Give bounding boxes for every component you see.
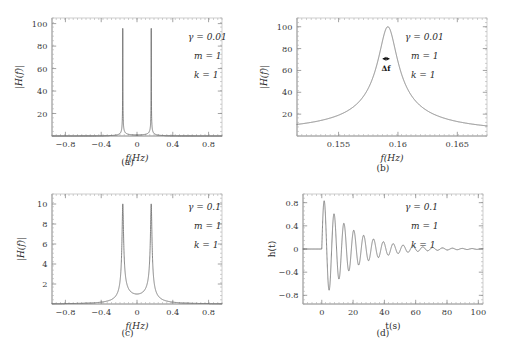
y-tick-label: 80 bbox=[282, 44, 292, 54]
panel-b-plot: 0.1550.160.16520406080100f(Hz)|H(f)|γ = … bbox=[255, 0, 511, 180]
x-tick-label: 0.8 bbox=[202, 307, 215, 317]
transfer-function-curve bbox=[52, 28, 222, 136]
parameter-annotation: γ = 0.01 bbox=[188, 32, 227, 42]
panel-a-caption: (a) bbox=[0, 157, 255, 167]
parameter-annotation: m = 1 bbox=[411, 221, 439, 231]
impulse-response-curve bbox=[303, 201, 483, 290]
y-axis-label: |H(f)| bbox=[14, 65, 25, 89]
y-tick-label: 6 bbox=[42, 239, 47, 249]
y-tick-label: 0 bbox=[293, 244, 298, 254]
x-tick-label: 60 bbox=[410, 307, 420, 317]
y-tick-label: 20 bbox=[282, 109, 292, 119]
x-tick-label: 0.4 bbox=[166, 307, 179, 317]
x-tick-label: 0.16 bbox=[389, 139, 407, 149]
y-tick-label: 0.8 bbox=[285, 198, 298, 208]
transfer-function-curve bbox=[297, 27, 487, 126]
x-tick-label: 100 bbox=[470, 307, 486, 317]
x-tick-label: 0.8 bbox=[202, 139, 215, 149]
parameter-annotation: k = 1 bbox=[194, 240, 218, 250]
parameter-annotation: k = 1 bbox=[194, 70, 218, 80]
x-tick-label: 0.155 bbox=[327, 139, 350, 149]
x-tick-label: −0.8 bbox=[55, 307, 75, 317]
parameter-annotation: γ = 0.1 bbox=[188, 202, 221, 212]
bandwidth-label: Δf bbox=[382, 64, 392, 73]
transfer-function-curve bbox=[52, 204, 222, 304]
x-tick-label: 0 bbox=[134, 139, 139, 149]
y-tick-label: 100 bbox=[32, 19, 48, 29]
parameter-annotation: k = 1 bbox=[411, 70, 435, 80]
bandwidth-arrow-group bbox=[383, 57, 390, 61]
y-tick-label: 0.4 bbox=[285, 221, 298, 231]
parameter-annotation: γ = 0.01 bbox=[405, 32, 444, 42]
panel-b-caption: (b) bbox=[255, 163, 511, 173]
parameter-annotation: m = 1 bbox=[411, 51, 439, 61]
chart-panel-a: −0.8−0.400.40.820406080100f(Hz)|H(f)|γ =… bbox=[0, 0, 255, 180]
y-tick-label: −0.8 bbox=[279, 290, 299, 300]
y-tick-label: 10 bbox=[37, 199, 47, 209]
panel-a-plot: −0.8−0.400.40.820406080100f(Hz)|H(f)|γ =… bbox=[0, 0, 255, 180]
y-tick-label: −0.4 bbox=[279, 267, 299, 277]
parameter-annotation: m = 1 bbox=[194, 221, 222, 231]
y-tick-label: 20 bbox=[37, 109, 47, 119]
x-tick-label: 0.4 bbox=[166, 139, 179, 149]
x-tick-label: −0.8 bbox=[55, 139, 75, 149]
y-axis-label: h(t) bbox=[267, 241, 277, 257]
x-axis-label: f(Hz) bbox=[380, 153, 404, 163]
y-tick-label: 2 bbox=[42, 279, 47, 289]
x-tick-label: 40 bbox=[379, 307, 389, 317]
x-tick-label: 20 bbox=[348, 307, 358, 317]
y-tick-label: 40 bbox=[282, 87, 292, 97]
y-tick-label: 100 bbox=[277, 22, 293, 32]
chart-panel-b: 0.1550.160.16520406080100f(Hz)|H(f)|γ = … bbox=[255, 0, 511, 180]
x-tick-label: 0 bbox=[319, 307, 324, 317]
x-tick-label: 0.165 bbox=[446, 139, 469, 149]
parameter-annotation: m = 1 bbox=[194, 51, 222, 61]
y-tick-label: 4 bbox=[42, 259, 47, 269]
x-tick-label: −0.4 bbox=[91, 139, 111, 149]
y-tick-label: 60 bbox=[37, 64, 47, 74]
y-tick-label: 8 bbox=[42, 219, 47, 229]
chart-panel-c: −0.8−0.400.40.8246810f(Hz)|H(f)|γ = 0.1m… bbox=[0, 180, 255, 361]
y-tick-label: 80 bbox=[37, 41, 47, 51]
y-tick-label: 60 bbox=[282, 65, 292, 75]
x-tick-label: 80 bbox=[442, 307, 452, 317]
y-axis-label: |H(f)| bbox=[259, 65, 270, 89]
panel-c-caption: (c) bbox=[0, 328, 255, 338]
x-tick-label: −0.4 bbox=[91, 307, 111, 317]
panel-d-caption: (d) bbox=[255, 328, 511, 338]
x-tick-label: 0 bbox=[134, 307, 139, 317]
figure-panel-grid: −0.8−0.400.40.820406080100f(Hz)|H(f)|γ =… bbox=[0, 0, 511, 361]
y-axis-label: |H(f)| bbox=[16, 237, 27, 261]
parameter-annotation: γ = 0.1 bbox=[405, 202, 438, 212]
chart-panel-d: 020406080100−0.8−0.400.40.8t(s)h(t)γ = 0… bbox=[255, 180, 511, 361]
y-tick-label: 40 bbox=[37, 86, 47, 96]
